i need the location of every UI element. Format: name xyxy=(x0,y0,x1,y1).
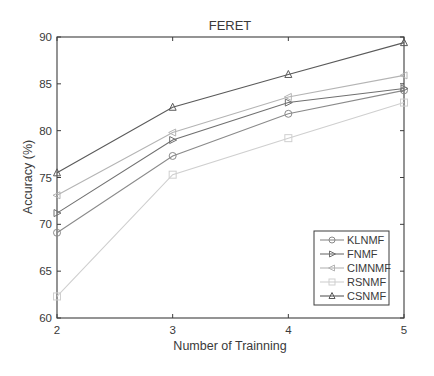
line-chart: FERET 60657075808590 2345 Number of Trai… xyxy=(0,0,434,376)
legend-label: FNMF xyxy=(347,248,378,260)
y-tick-label: 90 xyxy=(39,31,52,43)
legend: KLNMFFNMFCIMNMFRSNMFCSNMF xyxy=(314,231,391,305)
legend-label: RSNMF xyxy=(347,276,386,288)
x-axis-label: Number of Trainning xyxy=(173,339,286,353)
y-tick-label: 70 xyxy=(39,218,52,230)
chart-title: FERET xyxy=(209,18,252,33)
y-tick-label: 60 xyxy=(39,312,52,324)
x-tick-label: 3 xyxy=(169,324,175,336)
y-tick-label: 80 xyxy=(39,125,52,137)
y-tick-label: 75 xyxy=(39,172,52,184)
x-tick-label: 2 xyxy=(54,324,60,336)
legend-label: KLNMF xyxy=(347,234,385,246)
x-tick-label: 4 xyxy=(285,324,292,336)
y-tick-label: 85 xyxy=(39,78,52,90)
legend-label: CSNMF xyxy=(347,290,386,302)
legend-label: CIMNMF xyxy=(347,262,391,274)
x-tick-label: 5 xyxy=(401,324,407,336)
y-axis-label: Accuracy (%) xyxy=(21,140,35,214)
y-tick-label: 65 xyxy=(39,265,52,277)
